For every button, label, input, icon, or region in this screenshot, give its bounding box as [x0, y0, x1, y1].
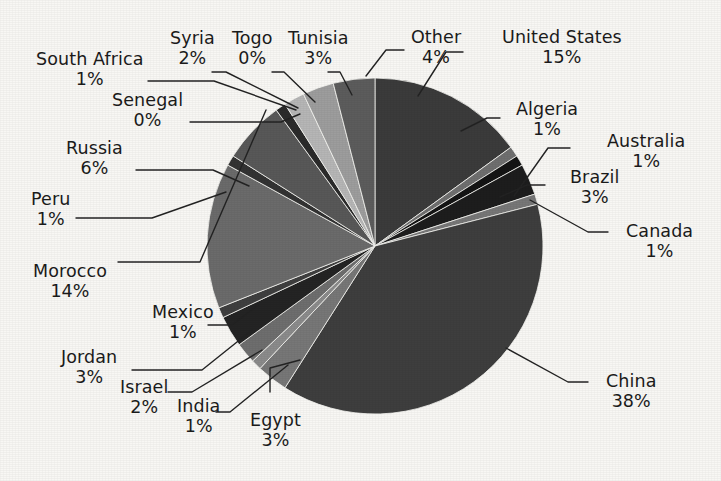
pie-label-egypt: Egypt3%: [250, 411, 301, 450]
pie-label-name-south-africa: South Africa: [36, 50, 144, 70]
pie-label-brazil: Brazil3%: [570, 168, 619, 207]
peru-leader: [76, 192, 226, 218]
pie-label-algeria: Algeria1%: [516, 100, 578, 139]
pie-label-china: China38%: [606, 372, 657, 411]
pie-label-percent-mexico: 1%: [152, 323, 214, 343]
pie-label-percent-tunisia: 3%: [288, 49, 348, 69]
pie-label-australia: Australia1%: [607, 132, 685, 171]
pie-label-name-china: China: [606, 372, 657, 392]
pie-label-canada: Canada1%: [626, 222, 693, 261]
pie-label-mexico: Mexico1%: [152, 303, 214, 342]
pie-label-name-russia: Russia: [66, 139, 123, 159]
pie-label-togo: Togo0%: [232, 29, 273, 68]
pie-label-syria: Syria2%: [170, 29, 215, 68]
pie-label-name-jordan: Jordan: [61, 348, 117, 368]
pie-chart-figure: United States 15%Algeria 1%Australia 1%B…: [0, 0, 721, 481]
pie-label-percent-peru: 1%: [31, 210, 70, 230]
pie-label-name-togo: Togo: [232, 29, 273, 49]
pie-label-name-morocco: Morocco: [33, 262, 107, 282]
pie-label-percent-egypt: 3%: [250, 431, 301, 451]
pie-label-name-australia: Australia: [607, 132, 685, 152]
pie-label-morocco: Morocco14%: [33, 262, 107, 301]
pie-label-name-mexico: Mexico: [152, 303, 214, 323]
pie-label-percent-syria: 2%: [170, 49, 215, 69]
pie-label-senegal: Senegal0%: [112, 91, 183, 130]
pie-label-percent-senegal: 0%: [112, 111, 183, 131]
pie-label-percent-israel: 2%: [120, 398, 168, 418]
pie-label-israel: Israel2%: [120, 378, 168, 417]
pie-label-peru: Peru1%: [31, 190, 70, 229]
pie-label-percent-jordan: 3%: [61, 368, 117, 388]
pie-label-name-algeria: Algeria: [516, 100, 578, 120]
pie-label-percent-togo: 0%: [232, 49, 273, 69]
pie-label-name-united-states: United States: [502, 28, 622, 48]
pie-label-south-africa: South Africa1%: [36, 50, 144, 89]
pie-label-name-senegal: Senegal: [112, 91, 183, 111]
pie-label-percent-india: 1%: [177, 417, 220, 437]
pie-label-india: India1%: [177, 397, 220, 436]
pie-label-percent-brazil: 3%: [570, 188, 619, 208]
syria-leader: [212, 72, 298, 108]
pie-label-name-tunisia: Tunisia: [288, 29, 348, 49]
pie-label-united-states: United States15%: [502, 28, 622, 67]
pie-label-percent-canada: 1%: [626, 242, 693, 262]
pie-label-other: Other4%: [411, 28, 461, 67]
pie-label-percent-united-states: 15%: [502, 48, 622, 68]
pie-label-name-other: Other: [411, 28, 461, 48]
pie-label-percent-algeria: 1%: [516, 120, 578, 140]
pie-label-jordan: Jordan3%: [61, 348, 117, 387]
pie-label-name-canada: Canada: [626, 222, 693, 242]
pie-label-percent-south-africa: 1%: [36, 70, 144, 90]
china-leader: [506, 348, 588, 382]
pie-label-tunisia: Tunisia3%: [288, 29, 348, 68]
pie-label-name-peru: Peru: [31, 190, 70, 210]
pie-label-percent-china: 38%: [606, 392, 657, 412]
pie-label-name-brazil: Brazil: [570, 168, 619, 188]
pie-label-percent-russia: 6%: [66, 159, 123, 179]
pie-label-name-israel: Israel: [120, 378, 168, 398]
pie-label-percent-other: 4%: [411, 48, 461, 68]
pie-label-name-egypt: Egypt: [250, 411, 301, 431]
pie-label-russia: Russia6%: [66, 139, 123, 178]
other-leader: [366, 50, 404, 76]
pie-label-name-syria: Syria: [170, 29, 215, 49]
pie-label-name-india: India: [177, 397, 220, 417]
pie-label-percent-morocco: 14%: [33, 282, 107, 302]
